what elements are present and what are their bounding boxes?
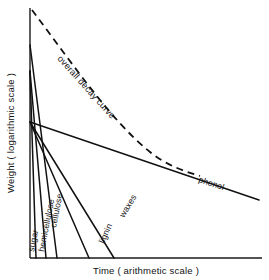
series-line-phenol xyxy=(30,122,259,200)
chart-axes xyxy=(30,8,262,258)
y-axis-title: Weight ( logarithmic scale ) xyxy=(5,73,16,193)
series-label-waxes: waxes xyxy=(117,193,139,220)
series-label-cellulose: cellulose xyxy=(48,193,64,229)
series-label-lignin: lignin xyxy=(97,222,115,245)
x-axis-title: Time ( arithmetic scale ) xyxy=(93,265,199,276)
series-label-overall-decay-curve: overall decay curve xyxy=(56,54,118,121)
decay-series-group xyxy=(30,45,259,258)
decay-curve-figure: Time ( arithmetic scale ) Weight ( logar… xyxy=(0,0,269,280)
series-label-phenol: phenol xyxy=(197,174,225,192)
chart-svg: Time ( arithmetic scale ) Weight ( logar… xyxy=(0,0,269,280)
